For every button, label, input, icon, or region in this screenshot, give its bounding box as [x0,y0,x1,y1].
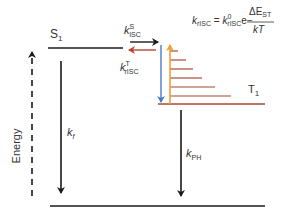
risc-rate-equation: krISC = k0rISCe− ΔEST kT [192,6,274,35]
s1-label: S1 [50,27,63,43]
krisc-label: kTrISC [120,60,139,75]
kf-label: kf [67,126,76,140]
kisc-label: kSISC [124,23,141,38]
svg-text:krISC = k0rISCe−: krISC = k0rISCe− [192,13,253,27]
jablonski-diagram: Energy S1 T1 kSISC kTrISC kf kPH [0,0,281,212]
vibrational-ladder [170,51,231,96]
svg-text:ΔEST: ΔEST [249,6,272,18]
svg-text:kT: kT [253,24,265,35]
kph-label: kPH [186,147,201,161]
t1-label: T1 [248,83,260,98]
energy-axis-label: Energy [10,128,22,163]
